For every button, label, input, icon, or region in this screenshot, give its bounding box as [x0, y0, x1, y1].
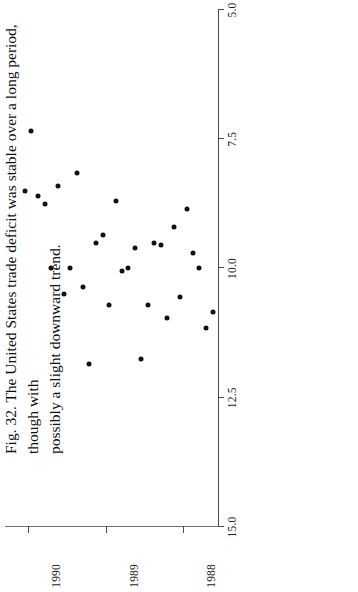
year-tick-label: 1990	[50, 564, 62, 588]
data-point	[204, 325, 209, 330]
year-tick-label: 1988	[205, 564, 217, 588]
data-point	[197, 266, 202, 271]
value-tick	[218, 397, 224, 398]
data-point	[139, 356, 144, 361]
data-point	[178, 294, 183, 299]
data-point	[152, 240, 157, 245]
value-tick-label: 7.5	[226, 132, 238, 147]
data-point	[119, 269, 124, 274]
value-tick	[218, 268, 224, 269]
data-point	[94, 240, 99, 245]
data-point	[210, 310, 215, 315]
x-axis-line	[218, 10, 219, 527]
caption-line-2: possibly a slight downward trend.	[46, 244, 63, 454]
data-point	[100, 232, 105, 237]
value-tick-label: 10.0	[226, 258, 238, 279]
value-tick	[218, 138, 224, 139]
data-point	[106, 302, 111, 307]
data-point	[68, 266, 73, 271]
year-tick	[106, 526, 107, 533]
figure-caption: Fig. 32. The United States trade deficit…	[0, 0, 66, 470]
data-point	[87, 362, 92, 367]
data-point	[191, 251, 196, 256]
value-tick-label: 15.0	[226, 517, 238, 538]
year-tick	[28, 526, 29, 533]
year-tick	[183, 526, 184, 533]
caption-line-1: Fig. 32. The United States trade deficit…	[2, 24, 41, 454]
value-tick	[218, 9, 224, 10]
value-tick-label: 5.0	[226, 3, 238, 18]
data-point	[145, 302, 150, 307]
reference-line-10	[5, 526, 218, 527]
value-tick	[218, 526, 224, 527]
data-point	[133, 245, 138, 250]
data-point	[185, 207, 190, 212]
data-point	[164, 315, 169, 320]
figure-page: 15.012.510.07.55.0 198819891990 Fig. 32.…	[0, 0, 358, 592]
data-point	[81, 284, 86, 289]
data-point	[75, 170, 80, 175]
value-tick-label: 12.5	[226, 387, 238, 408]
data-point	[171, 225, 176, 230]
year-tick-label: 1989	[128, 564, 140, 588]
data-point	[113, 199, 118, 204]
data-point	[158, 243, 163, 248]
data-point	[126, 266, 131, 271]
